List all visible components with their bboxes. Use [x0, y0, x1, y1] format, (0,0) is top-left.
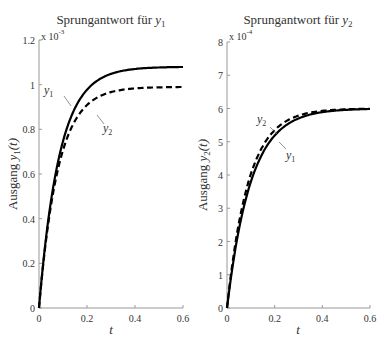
x-tick-label: 0.4 — [316, 313, 329, 324]
annotation-leader — [64, 96, 71, 106]
annotation-y1: y1 — [285, 148, 295, 164]
x-tick-label: 0.2 — [81, 313, 94, 324]
y-tick-label: 7 — [218, 70, 223, 81]
series-y2-line — [227, 109, 370, 308]
y-tick-label: 0.8 — [23, 124, 36, 135]
y-tick-label: 0.4 — [23, 214, 36, 225]
y-tick-label: 0.2 — [23, 258, 36, 269]
x-axis-label: t — [296, 322, 300, 337]
y-tick-label: 0 — [218, 303, 223, 314]
x-tick-label: 0.6 — [177, 313, 190, 324]
y-scale-label: x 10-3 — [41, 28, 65, 42]
y-tick-label: 1 — [218, 270, 223, 281]
x-tick-label: 0.2 — [268, 313, 281, 324]
annotation-y2: y2 — [102, 121, 112, 137]
y-tick-label: 2 — [218, 237, 223, 248]
y-tick-label: 1 — [30, 80, 35, 91]
x-tick-label: 0 — [225, 313, 230, 324]
y-axis-label: Ausgang y1(t) — [5, 138, 22, 210]
x-tick-label: 0.4 — [129, 313, 142, 324]
annotation-y2: y2 — [256, 112, 266, 128]
y-tick-label: 6 — [218, 104, 223, 115]
chart-left: Sprungantwort für y1 x 10-3 00.20.40.60.… — [5, 12, 189, 337]
chart-title: Sprungantwort für y1 — [56, 12, 165, 29]
y-tick-label: 1.2 — [23, 35, 36, 46]
x-tick-label: 0 — [37, 313, 42, 324]
series-y2-line — [39, 87, 183, 308]
y-axis-label: Ausgang y2(t) — [195, 139, 212, 211]
y-tick-label: 4 — [218, 170, 223, 181]
y-tick-label: 8 — [218, 37, 223, 48]
y-tick-label: 0 — [30, 303, 35, 314]
series-y1-line — [227, 109, 370, 308]
y-tick-label: 5 — [218, 137, 223, 148]
y-ticks: 012345678 — [218, 37, 230, 314]
series-y1-line — [39, 67, 183, 308]
chart-right: Sprungantwort für y2 x 10-4 012345678 00… — [195, 12, 376, 337]
y-tick-label: 3 — [218, 203, 223, 214]
chart-title: Sprungantwort für y2 — [243, 12, 352, 29]
x-tick-label: 0.6 — [364, 313, 377, 324]
annotation-leader — [279, 142, 286, 149]
annotation-y1: y1 — [43, 83, 53, 99]
x-axis-label: t — [109, 322, 113, 337]
y-tick-label: 0.6 — [23, 169, 36, 180]
figure: Sprungantwort für y1 x 10-3 00.20.40.60.… — [0, 0, 384, 340]
y-scale-label: x 10-4 — [229, 28, 253, 42]
